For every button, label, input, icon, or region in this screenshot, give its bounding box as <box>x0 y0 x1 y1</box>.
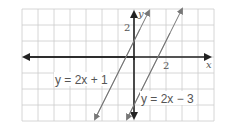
equation-label-1: y = 2x + 1 <box>55 73 108 87</box>
x-tick-label: 2 <box>163 60 169 71</box>
coordinate-plane: 2 2 x y y = 2x + 1 y = 2x − 3 <box>0 0 226 130</box>
x-axis-label: x <box>206 59 212 70</box>
y-tick-label: 2 <box>124 22 130 33</box>
y-axis-label: y <box>137 8 144 19</box>
equation-label-2: y = 2x − 3 <box>141 92 194 106</box>
